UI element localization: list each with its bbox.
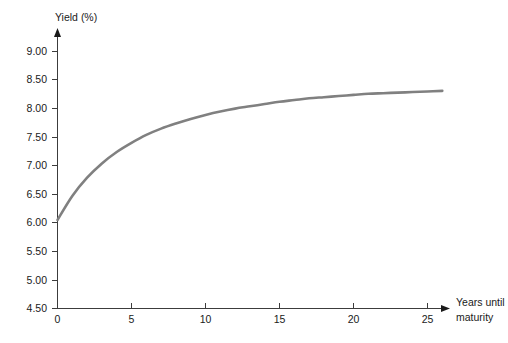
x-axis-title-line2: maturity xyxy=(456,311,494,323)
y-tick-label-2: 5.50 xyxy=(27,245,48,257)
y-tick-label-5: 7.00 xyxy=(27,159,48,171)
y-tick-label-4: 6.50 xyxy=(27,188,48,200)
chart-canvas: 4.50 5.00 5.50 6.00 6.50 7.00 7.50 8.00 … xyxy=(0,0,508,343)
x-tick-label-5: 25 xyxy=(422,313,434,325)
y-axis-title: Yield (%) xyxy=(55,11,97,23)
y-tick-label-6: 7.50 xyxy=(27,131,48,143)
y-axis-arrow-up-icon xyxy=(54,28,61,37)
yield-curve-figure: 4.50 5.00 5.50 6.00 6.50 7.00 7.50 8.00 … xyxy=(0,0,508,343)
y-tick-label-7: 8.00 xyxy=(27,102,48,114)
yield-curve-line xyxy=(58,91,443,220)
x-axis-title-line1: Years until xyxy=(456,296,505,308)
y-tick-label-9: 9.00 xyxy=(27,45,48,57)
x-tick-label-3: 15 xyxy=(274,313,286,325)
x-tick-label-4: 20 xyxy=(348,313,360,325)
x-tick-label-2: 10 xyxy=(200,313,212,325)
x-tick-label-1: 5 xyxy=(129,313,135,325)
y-tick-label-1: 5.00 xyxy=(27,274,48,286)
y-tick-label-3: 6.00 xyxy=(27,216,48,228)
y-tick-label-8: 8.50 xyxy=(27,73,48,85)
x-tick-label-0: 0 xyxy=(55,313,61,325)
y-tick-label-0: 4.50 xyxy=(27,302,48,314)
x-axis-arrow-right-icon xyxy=(441,305,450,312)
